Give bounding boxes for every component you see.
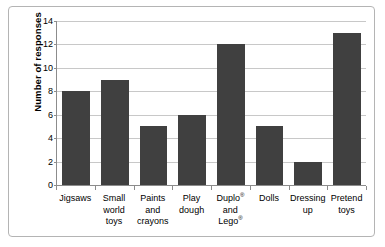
y-axis-tick-label: 4: [48, 133, 53, 143]
y-axis-tick-label: 2: [48, 157, 53, 167]
bar-slot: [250, 21, 289, 185]
bar-slot: [96, 21, 135, 185]
x-axis-label: Duplo®andLego®: [211, 193, 250, 228]
bar: [178, 115, 206, 185]
x-axis-tick-mark: [134, 186, 135, 190]
y-axis-tick-label: 10: [43, 63, 53, 73]
bar-slot: [57, 21, 96, 185]
bar-slot: [289, 21, 328, 185]
x-axis-label: Playdough: [172, 193, 211, 228]
bar: [333, 33, 361, 185]
y-axis-tick-label: 12: [43, 39, 53, 49]
bar: [62, 91, 90, 185]
bar: [294, 162, 322, 185]
x-axis-tick-mark: [327, 186, 328, 190]
bar: [101, 80, 129, 185]
x-axis-label: Dressingup: [289, 193, 328, 228]
y-axis-tick-label: 0: [48, 180, 53, 190]
x-axis-labels: JigsawsSmallworldtoysPaintsandcrayonsPla…: [56, 193, 366, 228]
plot-area: 14121086420: [56, 21, 366, 186]
y-axis-tick-label: 8: [48, 86, 53, 96]
x-axis-tick-mark: [250, 186, 251, 190]
bar-slot: [212, 21, 251, 185]
bar-slot: [173, 21, 212, 185]
bar-series: [57, 21, 366, 185]
x-axis-tick-mark: [56, 186, 57, 190]
x-axis-label: Paintsandcrayons: [134, 193, 173, 228]
x-axis-tick-mark: [289, 186, 290, 190]
bar: [256, 126, 284, 185]
x-axis-label: Smallworldtoys: [95, 193, 134, 228]
x-axis-tick-mark: [366, 186, 367, 190]
x-axis-tick-mark: [211, 186, 212, 190]
x-axis-tick-mark: [95, 186, 96, 190]
bar: [140, 126, 168, 185]
x-axis-tick-mark: [172, 186, 173, 190]
x-axis-label: Jigsaws: [56, 193, 95, 228]
y-axis-tick-label: 6: [48, 110, 53, 120]
bar: [217, 44, 245, 185]
y-axis-tick-label: 14: [43, 16, 53, 26]
bar-slot: [327, 21, 366, 185]
x-axis-label: Dolls: [250, 193, 289, 228]
x-axis-label: Pretendtoys: [327, 193, 366, 228]
x-axis-tick-marks: [56, 186, 366, 190]
chart-figure: Number of responses 14121086420 JigsawsS…: [8, 6, 375, 237]
bar-slot: [134, 21, 173, 185]
